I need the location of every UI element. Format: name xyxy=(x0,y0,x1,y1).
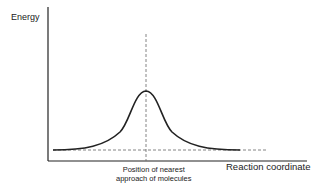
x-axis-label: Reaction coordinate xyxy=(226,162,311,172)
peak-annotation-line-2: approach of molecules xyxy=(116,175,191,184)
peak-annotation: Position of nearest approach of molecule… xyxy=(116,166,191,183)
energy-curve xyxy=(53,91,240,150)
